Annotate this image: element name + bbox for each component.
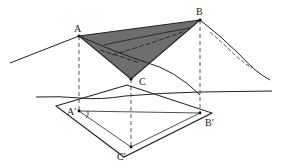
point-a-prime	[78, 110, 81, 113]
ground-line	[36, 91, 272, 99]
label-c-prime: C′	[117, 151, 126, 162]
label-b-prime: B′	[205, 117, 214, 128]
point-a	[77, 34, 80, 37]
terrain-ridge-right	[200, 20, 270, 80]
label-a-prime: A′	[67, 106, 76, 117]
label-b: B	[196, 6, 203, 17]
triangle-abc	[79, 20, 200, 79]
triangle-projected	[79, 111, 200, 147]
terrain-ridge-left	[10, 36, 79, 63]
point-c	[129, 77, 132, 80]
point-b-prime	[199, 112, 202, 115]
label-c: C	[139, 76, 146, 87]
terrain-ridge-hidden	[210, 32, 252, 68]
projection-diagram: A B C A′ B′ C′	[0, 0, 284, 168]
label-a: A	[74, 23, 82, 34]
point-b	[198, 18, 201, 21]
point-c-prime	[130, 146, 133, 149]
